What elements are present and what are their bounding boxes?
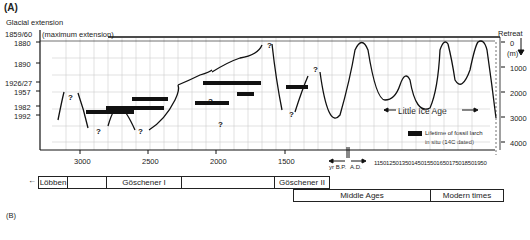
svg-text:?: ? — [313, 65, 318, 74]
svg-text:?: ? — [96, 127, 101, 136]
period-lobben: Löbben — [38, 176, 68, 189]
svg-text:?: ? — [289, 110, 294, 119]
period-goschener-1: Göschener I — [106, 176, 182, 189]
legend-swatch — [408, 131, 422, 136]
panel-b-label: (B) — [6, 211, 16, 220]
retreat-arrow-icon — [518, 38, 524, 55]
svg-text:?: ? — [218, 120, 223, 129]
uncertainty-marks: ??? ??? ?? — [68, 41, 318, 136]
svg-text:?: ? — [68, 93, 73, 102]
grid-lines — [52, 38, 490, 150]
period-middle-ages: Middle Ages — [293, 189, 431, 202]
period-row-2: Middle Ages Modern times — [293, 189, 508, 202]
left-arrow-icon: ← — [28, 176, 36, 185]
period-goschener-2: Göschener II — [274, 176, 330, 189]
period-blank-2 — [181, 176, 275, 189]
svg-text:?: ? — [138, 127, 143, 136]
period-modern-times: Modern times — [430, 189, 504, 202]
svg-text:?: ? — [267, 41, 272, 50]
period-blank-1 — [67, 176, 107, 189]
bp-ad-arrows — [329, 159, 366, 163]
lia-arrows — [384, 108, 478, 112]
period-row-1: ← Löbben Göschener I Göschener II — [38, 176, 334, 189]
